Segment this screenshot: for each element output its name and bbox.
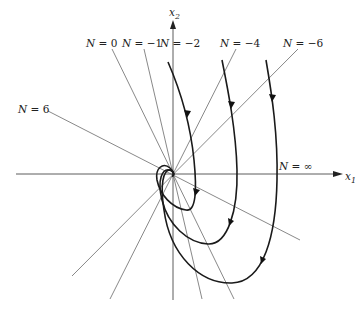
arrow-icon [269,94,276,102]
arrow-icon [193,188,200,196]
label-ninf: N = ∞ [278,160,312,172]
label-n6: N = 6 [17,103,50,115]
arrow-icon [228,101,235,109]
arrow-icon [184,110,191,118]
label-nm6: N = −6 [282,37,323,49]
phase-plane-figure: x1 x2 N = 0 N = −1 N = −2 N = −4 N = [0,0,356,322]
trajectory-middle [160,60,237,244]
label-nm2: N = −2 [159,37,200,49]
x2-axis-label: x2 [169,6,180,21]
label-nm1: N = −1 [121,37,162,49]
x1-axis-arrow-icon [333,171,343,177]
label-n0: N = 0 [85,37,117,49]
isocline-nm6 [72,49,298,276]
label-nm4: N = −4 [219,37,260,49]
x2-axis-arrow-icon [170,20,176,29]
x1-axis-label: x1 [345,170,356,185]
trajectories [157,60,277,283]
